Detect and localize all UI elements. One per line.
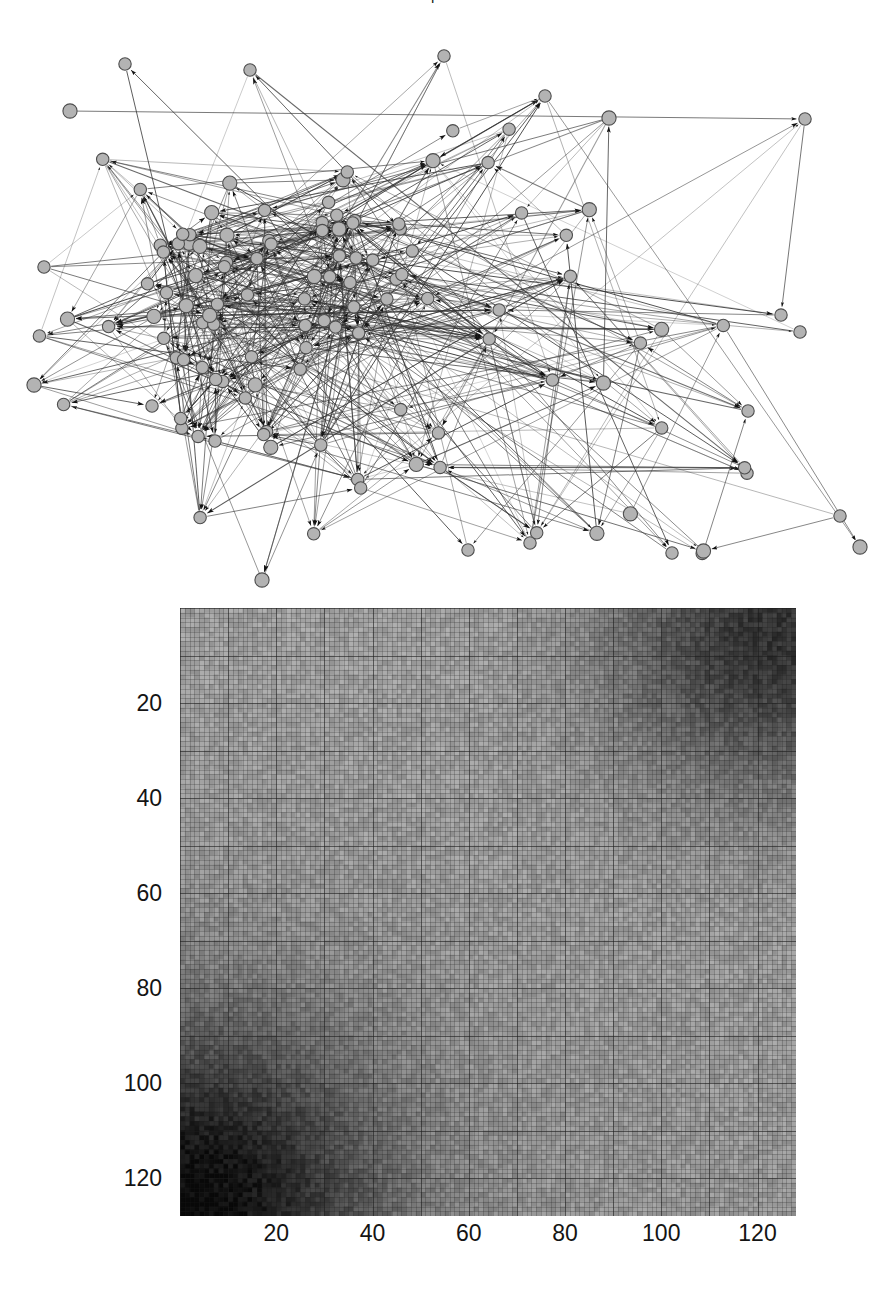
graph-node[interactable]	[395, 403, 407, 415]
graph-node[interactable]	[406, 245, 418, 257]
graph-node[interactable]	[244, 64, 256, 76]
graph-node[interactable]	[350, 252, 362, 264]
graph-node[interactable]	[503, 123, 515, 135]
graph-node[interactable]	[546, 374, 558, 386]
graph-node[interactable]	[192, 430, 204, 442]
graph-node[interactable]	[60, 312, 74, 326]
graph-node[interactable]	[223, 176, 237, 190]
graph-node[interactable]	[218, 261, 230, 273]
graph-node[interactable]	[582, 203, 596, 217]
graph-node[interactable]	[307, 269, 321, 283]
graph-node[interactable]	[332, 222, 346, 236]
graph-node[interactable]	[160, 287, 172, 299]
graph-node[interactable]	[251, 252, 263, 264]
graph-node[interactable]	[119, 58, 131, 70]
graph-node[interactable]	[539, 90, 551, 102]
graph-node[interactable]	[177, 228, 189, 240]
graph-node[interactable]	[193, 239, 207, 253]
graph-node[interactable]	[482, 156, 494, 168]
graph-node[interactable]	[799, 113, 811, 125]
graph-node[interactable]	[742, 405, 754, 417]
graph-node[interactable]	[564, 270, 576, 282]
graph-node[interactable]	[348, 301, 360, 313]
graph-node[interactable]	[834, 510, 846, 522]
graph-node[interactable]	[347, 217, 359, 229]
graph-node[interactable]	[294, 363, 306, 375]
graph-node[interactable]	[634, 337, 646, 349]
graph-node[interactable]	[794, 326, 806, 338]
graph-node[interactable]	[853, 540, 867, 554]
graph-node[interactable]	[381, 293, 393, 305]
graph-node[interactable]	[308, 528, 320, 540]
graph-node[interactable]	[666, 547, 678, 559]
graph-node[interactable]	[396, 268, 408, 280]
graph-node[interactable]	[27, 378, 41, 392]
graph-node[interactable]	[344, 276, 356, 288]
graph-node[interactable]	[623, 507, 637, 521]
graph-node[interactable]	[322, 196, 334, 208]
graph-node[interactable]	[258, 204, 270, 216]
graph-node[interactable]	[248, 378, 262, 392]
graph-node[interactable]	[602, 111, 616, 125]
graph-node[interactable]	[63, 104, 77, 118]
graph-node[interactable]	[341, 166, 353, 178]
graph-node[interactable]	[324, 271, 336, 283]
graph-node[interactable]	[205, 206, 219, 220]
graph-node[interactable]	[355, 482, 367, 494]
graph-node[interactable]	[211, 298, 223, 310]
graph-node[interactable]	[189, 269, 203, 283]
graph-node[interactable]	[432, 427, 444, 439]
graph-node[interactable]	[318, 315, 330, 327]
graph-node[interactable]	[97, 153, 109, 165]
graph-node[interactable]	[426, 154, 440, 168]
graph-node[interactable]	[422, 292, 434, 304]
graph-node[interactable]	[560, 229, 572, 241]
graph-node[interactable]	[409, 457, 423, 471]
graph-node[interactable]	[194, 511, 206, 523]
graph-node[interactable]	[531, 527, 543, 539]
graph-node[interactable]	[239, 392, 251, 404]
graph-node[interactable]	[353, 327, 365, 339]
graph-node[interactable]	[179, 299, 193, 313]
graph-node[interactable]	[265, 238, 277, 250]
graph-node[interactable]	[209, 435, 221, 447]
graph-node[interactable]	[590, 526, 604, 540]
graph-node[interactable]	[596, 376, 610, 390]
graph-node[interactable]	[717, 319, 729, 331]
graph-node[interactable]	[241, 289, 253, 301]
graph-node[interactable]	[434, 461, 446, 473]
graph-node[interactable]	[33, 330, 45, 342]
graph-node[interactable]	[102, 320, 114, 332]
graph-node[interactable]	[438, 50, 450, 62]
graph-node[interactable]	[300, 342, 312, 354]
graph-node[interactable]	[175, 412, 187, 424]
graph-node[interactable]	[298, 293, 310, 305]
graph-node[interactable]	[367, 254, 379, 266]
graph-node[interactable]	[158, 332, 170, 344]
graph-node[interactable]	[315, 439, 327, 451]
graph-node[interactable]	[775, 309, 787, 321]
graph-node[interactable]	[299, 319, 311, 331]
graph-node[interactable]	[57, 398, 69, 410]
graph-node[interactable]	[393, 218, 405, 230]
graph-node[interactable]	[203, 308, 217, 322]
graph-node[interactable]	[220, 228, 234, 242]
graph-node[interactable]	[157, 246, 169, 258]
graph-node[interactable]	[331, 209, 343, 221]
graph-node[interactable]	[255, 573, 269, 587]
graph-node[interactable]	[264, 440, 278, 454]
graph-node[interactable]	[493, 304, 505, 316]
graph-node[interactable]	[738, 462, 750, 474]
graph-node[interactable]	[196, 361, 208, 373]
graph-node[interactable]	[38, 261, 50, 273]
graph-node[interactable]	[134, 183, 146, 195]
graph-node[interactable]	[258, 428, 270, 440]
graph-node[interactable]	[656, 422, 668, 434]
graph-node[interactable]	[696, 544, 710, 558]
graph-node[interactable]	[655, 322, 669, 336]
graph-node[interactable]	[329, 321, 341, 333]
graph-node[interactable]	[210, 373, 222, 385]
graph-node[interactable]	[146, 400, 158, 412]
graph-node[interactable]	[333, 250, 345, 262]
graph-node[interactable]	[515, 207, 527, 219]
